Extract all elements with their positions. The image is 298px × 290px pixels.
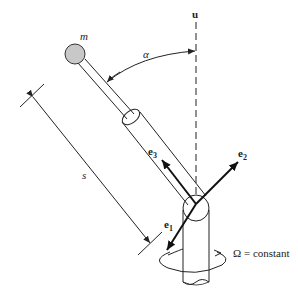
inner-rod bbox=[78, 59, 134, 119]
alpha-label: α bbox=[143, 48, 149, 60]
rotation-indicator bbox=[159, 249, 226, 272]
u-axis-label: u bbox=[192, 8, 198, 20]
e2-label: e2 bbox=[238, 147, 247, 162]
e2-vector bbox=[196, 162, 238, 204]
mass-label: m bbox=[80, 30, 88, 42]
outer-tube bbox=[119, 106, 206, 205]
pendulum-diagram: u Ω = constant m α s e3 e2 bbox=[0, 0, 298, 290]
alpha-arc bbox=[107, 51, 195, 82]
e1-label: e1 bbox=[164, 218, 173, 233]
e3-vector bbox=[162, 160, 196, 204]
mass-bob bbox=[65, 44, 85, 64]
e3-label: e3 bbox=[148, 145, 157, 160]
omega-label: Ω = constant bbox=[233, 247, 290, 259]
s-label: s bbox=[82, 169, 86, 181]
s-dimension bbox=[20, 84, 162, 255]
